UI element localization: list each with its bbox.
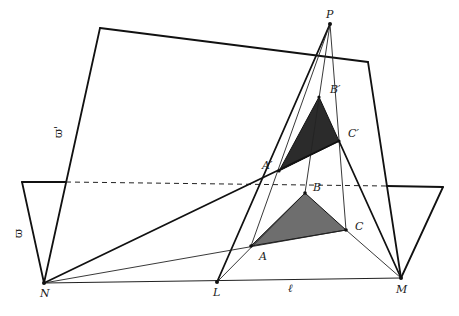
point-a-prime [277, 169, 280, 172]
label-line-l: ℓ [288, 282, 293, 295]
point-l [215, 280, 219, 284]
label-c-prime: C′ [348, 127, 359, 140]
point-c-prime [337, 139, 340, 142]
label-upper-plane: ϖ' [52, 126, 65, 138]
label-n: N [39, 287, 50, 300]
label-a-prime: A′ [261, 159, 273, 172]
label-l: L [212, 286, 220, 299]
point-c [344, 228, 348, 232]
upper-plane [44, 28, 401, 283]
label-lower-plane: ϖ [12, 229, 25, 238]
points [42, 22, 403, 285]
point-b [303, 191, 307, 195]
point-n [42, 281, 46, 285]
perspective-lines [217, 24, 346, 282]
side-extensions [44, 141, 401, 283]
point-a [249, 244, 253, 248]
label-m: M [395, 283, 408, 296]
point-m [399, 276, 403, 280]
point-p [328, 22, 332, 26]
line-l [44, 278, 401, 283]
point-b-prime [317, 95, 320, 98]
label-p: P [325, 8, 334, 21]
label-a: A [258, 250, 267, 263]
label-b: B [312, 181, 321, 194]
triangle-a-prime-b-prime-c-prime [279, 97, 339, 171]
desargues-diagram: P B′ C′ A′ B C A N L M ℓ ϖ' ϖ [0, 0, 459, 316]
label-c: C [355, 220, 364, 233]
label-b-prime: B′ [329, 83, 341, 96]
